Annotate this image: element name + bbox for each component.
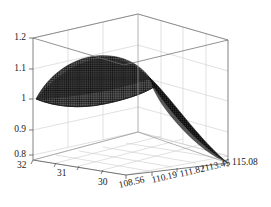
surface-mesh [36, 56, 228, 163]
z-tick-label-5: 0.8 [6, 150, 26, 160]
z-tick-label-4: 0.9 [6, 125, 26, 135]
tick-marks [29, 38, 228, 179]
y-tick-label-32: 32 [17, 161, 27, 171]
y-tick-label-30: 30 [98, 178, 108, 188]
x-tick-label-11508: 115.08 [232, 158, 258, 168]
z-tick-label-2: 1.1 [6, 64, 26, 74]
z-tick-label-1: 1.2 [6, 33, 26, 43]
surface-plot-figure: 1.2 1.1 1 0.9 0.8 32 31 30 108.56 110.19… [0, 0, 271, 207]
z-tick-label-3: 1 [6, 94, 26, 104]
y-tick-label-31: 31 [57, 169, 67, 179]
